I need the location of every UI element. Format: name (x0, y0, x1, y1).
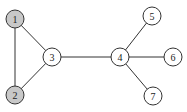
nodes: 1 2 3 4 5 6 7 (6, 7, 182, 105)
node-label: 2 (13, 90, 18, 101)
node-2: 2 (6, 86, 24, 104)
node-7: 7 (144, 87, 162, 105)
graph-diagram: 1 2 3 4 5 6 7 (0, 0, 187, 112)
node-label: 4 (118, 52, 123, 63)
node-4: 4 (111, 48, 129, 66)
node-label: 5 (150, 11, 155, 22)
node-5: 5 (143, 7, 161, 25)
node-6: 6 (164, 48, 182, 66)
node-label: 7 (151, 91, 156, 102)
node-label: 1 (13, 14, 18, 25)
node-1: 1 (6, 10, 24, 28)
node-label: 6 (171, 52, 176, 63)
node-label: 3 (50, 52, 55, 63)
node-3: 3 (43, 48, 61, 66)
edges (15, 16, 173, 96)
